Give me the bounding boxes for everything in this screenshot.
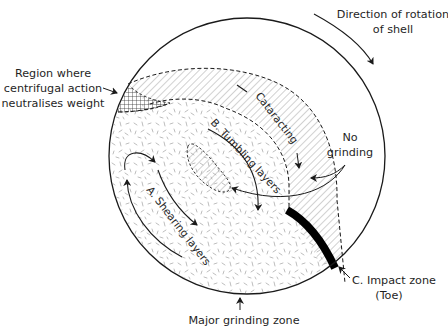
charge-region bbox=[108, 69, 345, 301]
region-label-1: Region where bbox=[15, 67, 91, 80]
impact-pointer bbox=[339, 267, 350, 278]
centrifugal-pointer bbox=[103, 88, 117, 93]
region-label-2: centrifugal action bbox=[4, 82, 102, 95]
no-grinding-label-1: No bbox=[342, 131, 357, 144]
impact-label-2: (Toe) bbox=[375, 289, 402, 302]
impact-label-1: C. Impact zone bbox=[352, 274, 436, 287]
major-grinding-label: Major grinding zone bbox=[188, 314, 299, 327]
no-grinding-label-2: grinding bbox=[327, 146, 373, 159]
rotation-label-1: Direction of rotation bbox=[337, 8, 448, 21]
region-label-3: neutralises weight bbox=[2, 97, 106, 110]
mill-diagram: Direction of rotation of shell Region wh… bbox=[0, 0, 448, 331]
rotation-label-2: of shell bbox=[373, 23, 413, 36]
